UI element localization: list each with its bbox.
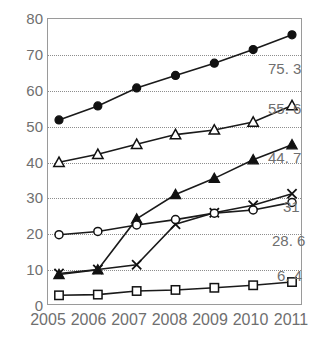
open-square-marker [132,287,140,295]
open-circle-marker [210,209,218,217]
end-label-55-6: 55. 6 [268,101,301,116]
y-tick-20: 20 [3,226,43,241]
x-tick-2006: 2006 [67,312,111,328]
filled-triangle-marker [248,155,258,164]
series-open-circle [55,198,296,238]
x-tick-2010: 2010 [229,312,273,328]
series-filled-circle [55,31,296,124]
filled-circle-marker [94,102,102,110]
y-tick-30: 30 [3,190,43,205]
open-circle-marker [249,206,257,214]
x-tick-2009: 2009 [188,312,232,328]
y-tick-10: 10 [3,262,43,277]
end-label-75-3: 75. 3 [268,61,301,76]
open-square-marker [249,281,257,289]
end-label-31: 31 [283,199,300,214]
open-circle-marker [172,216,180,224]
filled-circle-marker [133,84,141,92]
filled-circle-marker [55,116,63,124]
series-layer [47,18,302,305]
end-label-28-6: 28. 6 [272,233,305,248]
open-triangle-marker [248,117,258,126]
open-square-marker [94,290,102,298]
y-tick-70: 70 [3,47,43,62]
end-label-44-7: 44. 7 [268,150,301,165]
y-tick-80: 80 [3,11,43,26]
filled-triangle-marker [209,173,219,182]
end-label-6-4: 6. 4 [277,268,302,283]
open-square-marker [171,286,179,294]
x-tick-2011: 2011 [269,312,313,328]
filled-circle-marker [288,31,296,39]
filled-circle-marker [172,71,180,79]
filled-triangle-marker [170,189,180,198]
filled-circle-marker [210,59,218,67]
open-circle-marker [55,231,63,239]
y-tick-60: 60 [3,83,43,98]
filled-triangle-marker [287,139,297,148]
series-cross [54,189,296,278]
x-cross-marker [287,189,296,198]
open-circle-marker [133,221,141,229]
x-tick-2008: 2008 [148,312,192,328]
open-circle-marker [94,227,102,235]
x-tick-2005: 2005 [26,312,70,328]
series-open-square [55,278,296,300]
y-tick-50: 50 [3,119,43,134]
open-square-marker [55,291,63,299]
y-tick-40: 40 [3,155,43,170]
line-chart: 80 70 60 50 40 30 20 10 0 2005 2006 2007… [0,0,324,344]
filled-circle-marker [249,46,257,54]
x-tick-2007: 2007 [107,312,151,328]
open-square-marker [210,284,218,292]
